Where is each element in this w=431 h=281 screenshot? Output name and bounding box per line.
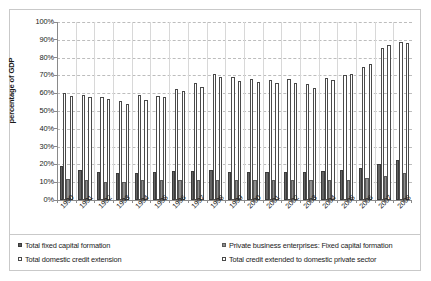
bar <box>294 83 297 200</box>
x-axis-tick-mark <box>188 200 189 203</box>
x-axis-label-cell: 1993 <box>113 200 132 234</box>
legend-item[interactable]: Total domestic credit extension <box>10 252 214 266</box>
y-axis-tick-label: 50% <box>6 107 54 114</box>
bar-group <box>150 22 169 200</box>
x-axis-label-cell: 1990 <box>57 200 76 234</box>
x-axis-label-cell: 2005 <box>337 200 356 234</box>
bar <box>350 74 353 200</box>
bar <box>238 81 241 200</box>
y-axis-tick: 90% <box>0 36 54 44</box>
legend-swatch-icon <box>18 243 22 247</box>
bar-group <box>319 22 338 200</box>
y-axis-tick-label: 60% <box>6 89 54 96</box>
x-axis-tick-mark <box>337 200 338 203</box>
bar <box>275 83 278 200</box>
legend-swatch-icon <box>222 243 226 247</box>
y-axis-tick: 80% <box>0 54 54 62</box>
legend-item-label: Total domestic credit extension <box>25 255 121 264</box>
y-axis-tick: 20% <box>0 160 54 168</box>
y-axis-tick-label: 0% <box>6 196 54 203</box>
bar-group <box>375 22 394 200</box>
y-axis-tick: 100% <box>0 18 54 26</box>
bar-group <box>169 22 188 200</box>
bar <box>369 64 372 200</box>
bar-group <box>300 22 319 200</box>
bar-group <box>113 22 132 200</box>
y-axis-tick-label: 20% <box>6 160 54 167</box>
x-axis-labels: 1990199119921993199419951996199719981999… <box>57 200 412 234</box>
x-axis-tick-mark <box>76 200 77 203</box>
x-axis-label-cell: 1999 <box>225 200 244 234</box>
legend-item-label: Total credit extended to domestic privat… <box>229 255 376 264</box>
x-axis-label-cell: 2007 <box>375 200 394 234</box>
legend-item[interactable]: Private business enterprises: Fixed capi… <box>214 238 420 252</box>
bar <box>182 91 185 200</box>
x-axis-label-cell: 2006 <box>356 200 375 234</box>
bar-group <box>356 22 375 200</box>
x-axis-label-cell: 2003 <box>300 200 319 234</box>
x-axis-label-cell: 2004 <box>319 200 338 234</box>
bar <box>387 45 390 200</box>
x-axis-tick-mark <box>94 200 95 203</box>
legend-swatch-icon <box>18 257 22 261</box>
x-axis-tick-mark <box>207 200 208 203</box>
bar-group <box>57 22 76 200</box>
bar <box>200 87 203 200</box>
x-axis-label-cell: 2008 <box>393 200 412 234</box>
gdp-bar-chart: percentage of GDP 100%90%80%70%60%50%40%… <box>0 0 431 281</box>
bar-group <box>207 22 226 200</box>
bar-group <box>281 22 300 200</box>
y-axis-tick-label: 30% <box>6 143 54 150</box>
x-axis-label-cell: 2001 <box>263 200 282 234</box>
bar-group <box>263 22 282 200</box>
y-axis-tick: 10% <box>0 178 54 186</box>
legend-item[interactable]: Total credit extended to domestic privat… <box>214 252 420 266</box>
bar <box>406 43 409 200</box>
y-axis-tick: 0% <box>0 196 54 204</box>
bar <box>257 82 260 200</box>
chart-legend: Total fixed capital formationPrivate bus… <box>10 234 420 270</box>
y-axis-tick: 40% <box>0 125 54 133</box>
legend-item-label: Total fixed capital formation <box>25 241 110 250</box>
x-axis-label-cell: 2000 <box>244 200 263 234</box>
bar <box>88 97 91 200</box>
x-axis-tick-mark <box>375 200 376 203</box>
x-axis-tick-mark <box>132 200 133 203</box>
x-axis-label-cell: 1994 <box>132 200 151 234</box>
bar-group <box>225 22 244 200</box>
x-axis-label-cell: 1997 <box>188 200 207 234</box>
x-axis-label-cell: 1998 <box>207 200 226 234</box>
x-axis-tick-mark <box>150 200 151 203</box>
legend-swatch-icon <box>222 257 226 261</box>
bar-group <box>188 22 207 200</box>
y-axis-tick-label: 90% <box>6 36 54 43</box>
bar-group <box>76 22 95 200</box>
bar-group <box>393 22 412 200</box>
x-axis-label-cell: 1995 <box>150 200 169 234</box>
y-axis-ticks: 100%90%80%70%60%50%40%30%20%10%0% <box>0 22 54 200</box>
legend-item[interactable]: Total fixed capital formation <box>10 238 214 252</box>
bar <box>219 77 222 200</box>
x-axis-label-cell: 1992 <box>94 200 113 234</box>
y-axis-tick-label: 70% <box>6 71 54 78</box>
bar <box>107 99 110 200</box>
bar <box>144 100 147 200</box>
bar-group <box>337 22 356 200</box>
y-axis-tick: 30% <box>0 143 54 151</box>
y-axis-tick-label: 80% <box>6 54 54 61</box>
x-axis-tick-mark <box>263 200 264 203</box>
x-axis-label-cell: 1991 <box>76 200 95 234</box>
bar <box>331 80 334 200</box>
bar-group <box>244 22 263 200</box>
bar-groups <box>57 22 412 200</box>
y-axis-tick: 50% <box>0 107 54 115</box>
bar <box>126 104 129 200</box>
bar-group <box>132 22 151 200</box>
y-axis-tick-label: 10% <box>6 178 54 185</box>
x-axis-tick-mark <box>225 200 226 203</box>
x-axis-tick-mark <box>319 200 320 203</box>
bar <box>70 96 73 200</box>
x-axis-label-cell: 1996 <box>169 200 188 234</box>
bar-group <box>94 22 113 200</box>
y-axis-tick-label: 100% <box>6 18 54 25</box>
